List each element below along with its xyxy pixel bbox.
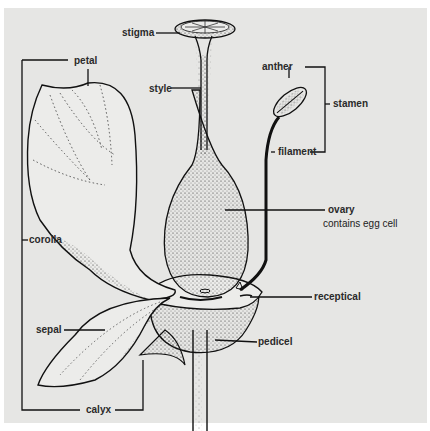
label-stigma: stigma [122,27,154,38]
label-stamen: stamen [333,98,368,109]
petal [28,83,176,300]
label-petal: petal [74,55,97,66]
label-style: style [149,83,172,94]
label-pedicel: pedicel [258,336,292,347]
label-calyx: calyx [86,404,111,415]
label-receptical: receptical [314,291,361,302]
label-corolla: corolla [29,234,62,245]
label-ovary: ovary [328,204,355,215]
label-filament: filament [278,146,316,157]
stigma [175,20,235,38]
label-ovary-note: contains egg cell [323,218,398,229]
sepal [38,298,170,387]
label-sepal: sepal [36,324,62,335]
label-anther: anther [262,61,293,72]
anther [269,82,311,122]
flower-diagram [0,0,430,431]
